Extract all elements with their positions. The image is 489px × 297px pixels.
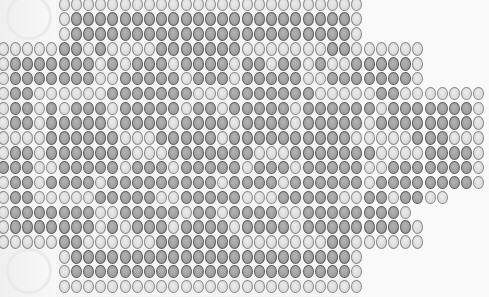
bead-dark[interactable] — [339, 206, 350, 220]
bead-dark[interactable] — [315, 220, 326, 234]
bead-light[interactable] — [132, 280, 143, 294]
bead-dark[interactable] — [181, 265, 192, 279]
bead-light[interactable] — [83, 280, 94, 294]
bead-dark[interactable] — [107, 265, 118, 279]
bead-light[interactable] — [107, 72, 118, 86]
bead-dark[interactable] — [168, 250, 179, 264]
bead-light[interactable] — [59, 250, 70, 264]
bead-dark[interactable] — [278, 27, 289, 41]
bead-dark[interactable] — [59, 116, 70, 130]
bead-dark[interactable] — [181, 57, 192, 71]
bead-light[interactable] — [107, 206, 118, 220]
bead-dark[interactable] — [254, 176, 265, 190]
bead-dark[interactable] — [437, 161, 448, 175]
bead-dark[interactable] — [168, 27, 179, 41]
bead-light[interactable] — [22, 235, 33, 249]
bead-light[interactable] — [327, 87, 338, 101]
bead-dark[interactable] — [193, 206, 204, 220]
bead-dark[interactable] — [339, 42, 350, 56]
bead-light[interactable] — [156, 280, 167, 294]
bead-dark[interactable] — [266, 206, 277, 220]
bead-dark[interactable] — [327, 72, 338, 86]
bead-dark[interactable] — [156, 72, 167, 86]
bead-dark[interactable] — [364, 57, 375, 71]
bead-light[interactable] — [205, 0, 216, 11]
bead-dark[interactable] — [34, 57, 45, 71]
bead-dark[interactable] — [205, 12, 216, 26]
bead-light[interactable] — [120, 57, 131, 71]
bead-dark[interactable] — [156, 57, 167, 71]
bead-light[interactable] — [193, 87, 204, 101]
bead-dark[interactable] — [229, 176, 240, 190]
bead-light[interactable] — [254, 280, 265, 294]
bead-dark[interactable] — [71, 265, 82, 279]
bead-dark[interactable] — [168, 235, 179, 249]
bead-dark[interactable] — [71, 131, 82, 145]
bead-dark[interactable] — [205, 191, 216, 205]
bead-dark[interactable] — [132, 161, 143, 175]
bead-dark[interactable] — [156, 116, 167, 130]
bead-dark[interactable] — [339, 12, 350, 26]
bead-dark[interactable] — [278, 220, 289, 234]
bead-dark[interactable] — [229, 12, 240, 26]
bead-light[interactable] — [290, 220, 301, 234]
bead-dark[interactable] — [107, 87, 118, 101]
bead-dark[interactable] — [144, 206, 155, 220]
bead-dark[interactable] — [120, 102, 131, 116]
bead-dark[interactable] — [303, 146, 314, 160]
bead-light[interactable] — [449, 131, 460, 145]
bead-light[interactable] — [266, 42, 277, 56]
bead-light[interactable] — [303, 42, 314, 56]
bead-dark[interactable] — [168, 72, 179, 86]
bead-dark[interactable] — [168, 87, 179, 101]
bead-light[interactable] — [217, 102, 228, 116]
bead-dark[interactable] — [315, 161, 326, 175]
bead-dark[interactable] — [303, 250, 314, 264]
bead-light[interactable] — [412, 87, 423, 101]
bead-light[interactable] — [144, 0, 155, 11]
bead-dark[interactable] — [315, 146, 326, 160]
bead-dark[interactable] — [181, 235, 192, 249]
bead-dark[interactable] — [107, 27, 118, 41]
bead-dark[interactable] — [46, 206, 57, 220]
bead-dark[interactable] — [71, 176, 82, 190]
bead-dark[interactable] — [144, 265, 155, 279]
bead-light[interactable] — [351, 87, 362, 101]
bead-light[interactable] — [473, 116, 484, 130]
bead-light[interactable] — [34, 102, 45, 116]
bead-dark[interactable] — [46, 57, 57, 71]
bead-light[interactable] — [254, 191, 265, 205]
bead-light[interactable] — [351, 250, 362, 264]
bead-light[interactable] — [400, 146, 411, 160]
bead-dark[interactable] — [71, 42, 82, 56]
bead-dark[interactable] — [120, 250, 131, 264]
bead-light[interactable] — [217, 206, 228, 220]
bead-dark[interactable] — [0, 161, 9, 175]
bead-light[interactable] — [107, 116, 118, 130]
bead-dark[interactable] — [34, 220, 45, 234]
bead-dark[interactable] — [254, 57, 265, 71]
bead-light[interactable] — [95, 235, 106, 249]
bead-light[interactable] — [217, 131, 228, 145]
bead-dark[interactable] — [156, 176, 167, 190]
bead-dark[interactable] — [71, 206, 82, 220]
bead-dark[interactable] — [315, 131, 326, 145]
bead-dark[interactable] — [71, 250, 82, 264]
bead-dark[interactable] — [156, 87, 167, 101]
bead-dark[interactable] — [168, 206, 179, 220]
bead-dark[interactable] — [144, 176, 155, 190]
bead-dark[interactable] — [46, 220, 57, 234]
bead-dark[interactable] — [388, 72, 399, 86]
bead-dark[interactable] — [303, 12, 314, 26]
bead-light[interactable] — [303, 280, 314, 294]
bead-light[interactable] — [473, 131, 484, 145]
bead-light[interactable] — [10, 235, 21, 249]
bead-dark[interactable] — [120, 116, 131, 130]
bead-dark[interactable] — [22, 206, 33, 220]
bead-dark[interactable] — [22, 220, 33, 234]
bead-dark[interactable] — [242, 87, 253, 101]
bead-dark[interactable] — [132, 250, 143, 264]
bead-dark[interactable] — [351, 102, 362, 116]
bead-dark[interactable] — [156, 206, 167, 220]
bead-dark[interactable] — [425, 116, 436, 130]
